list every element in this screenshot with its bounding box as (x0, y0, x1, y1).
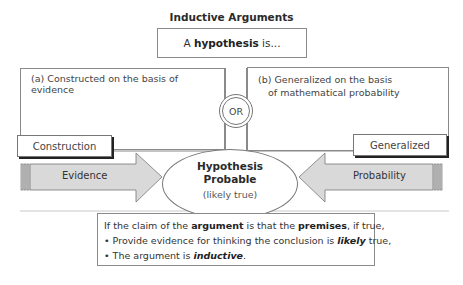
premises-bold: premises (298, 220, 347, 231)
argument-bold: argument (191, 220, 243, 231)
generalized-label: Generalized (353, 134, 447, 156)
conclusion-line3: • The argument is inductive. (104, 248, 368, 263)
text: If the claim of the (104, 220, 191, 231)
evidence-label: Evidence (62, 170, 108, 181)
construction-label: Construction (17, 135, 112, 157)
panel-b-line2: of mathematical probability (258, 86, 438, 99)
likely-bold-italic: likely (337, 235, 365, 246)
text: • The argument is (104, 250, 193, 261)
ellipse-line3: (likely true) (163, 189, 297, 200)
text: is that the (243, 220, 298, 231)
probability-label: Probability (353, 170, 406, 181)
hypothesis-probable-ellipse: Hypothesis Probable (likely true) (162, 149, 298, 219)
panel-a-text: (a) Constructed on the basis of evidence (31, 73, 178, 95)
diagram-title: Inductive Arguments (0, 11, 463, 23)
text: true, (366, 235, 392, 246)
hypothesis-box: A hypothesis is... (157, 28, 307, 58)
or-circle: OR (219, 94, 253, 128)
conclusion-line2: • Provide evidence for thinking the conc… (104, 233, 368, 248)
text: • Provide evidence for thinking the conc… (104, 235, 337, 246)
inductive-bold-italic: inductive (193, 250, 243, 261)
hypothesis-prefix: A (183, 37, 194, 49)
conclusion-line1: If the claim of the argument is that the… (104, 218, 368, 233)
text: . (243, 250, 246, 261)
ellipse-line1: Hypothesis (163, 160, 297, 173)
text: , if true, (347, 220, 385, 231)
panel-b-line1: (b) Generalized on the basis (258, 73, 438, 86)
ellipse-line2: Probable (163, 173, 297, 186)
or-label: OR (222, 97, 250, 125)
hypothesis-suffix: is... (259, 37, 281, 49)
hypothesis-bold: hypothesis (194, 37, 259, 49)
conclusion-box: If the claim of the argument is that the… (97, 213, 375, 266)
